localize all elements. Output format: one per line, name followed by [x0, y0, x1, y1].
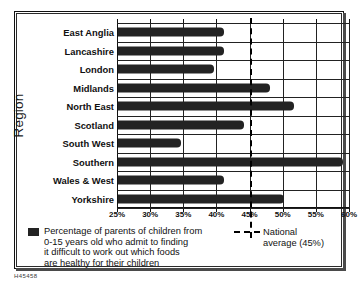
y-axis-category-label: Yorkshire — [28, 193, 114, 204]
x-axis-tick-labels: 25%30%35%40%45%50%55%60% — [117, 210, 349, 224]
x-gridline — [349, 23, 350, 208]
y-axis-category-label: Lancashire — [28, 45, 114, 56]
bar — [118, 102, 294, 111]
bar — [118, 194, 284, 203]
y-axis-category-label: Southern — [28, 156, 114, 167]
dashed-line-icon — [234, 231, 260, 233]
x-axis-tick-label: 60% — [341, 210, 357, 219]
x-axis-tick-label: 30% — [142, 210, 158, 219]
row-gridline — [117, 171, 349, 172]
legend-national-average: National average (45%) — [234, 227, 346, 248]
row-gridline — [117, 208, 349, 209]
legend-average-line1: National — [263, 227, 297, 238]
chart-figure: Region East AngliaLancashireLondonMidlan… — [0, 0, 359, 290]
x-axis-tick-label: 55% — [308, 210, 324, 219]
y-axis-category-label: London — [28, 64, 114, 75]
x-axis-tick-top — [349, 19, 350, 23]
row-gridline — [117, 42, 349, 43]
x-axis-tick-label: 40% — [208, 210, 224, 219]
bar — [118, 46, 224, 55]
bar — [118, 139, 181, 148]
y-axis-category-label: East Anglia — [28, 27, 114, 38]
reference-code: H45458 — [14, 273, 37, 279]
y-axis-category-label: Wales & West — [28, 175, 114, 186]
bar — [118, 176, 224, 185]
bar-series-swatch — [28, 228, 39, 236]
y-axis-category-label: Midlands — [28, 82, 114, 93]
row-gridline — [117, 23, 349, 24]
row-gridline — [117, 134, 349, 135]
row-gridline — [117, 97, 349, 98]
legend-series-text: Percentage of parents of children from0-… — [44, 226, 228, 268]
y-axis-category-label: North East — [28, 101, 114, 112]
x-axis-tick-label: 50% — [275, 210, 291, 219]
legend-series: Percentage of parents of children from0-… — [28, 226, 228, 268]
row-gridline — [117, 190, 349, 191]
legend-text-line: Percentage of parents of children from — [44, 226, 228, 237]
row-gridline — [117, 79, 349, 80]
bar — [118, 65, 214, 74]
bar — [118, 28, 224, 37]
national-average-line — [250, 18, 252, 238]
legend-text-line: it difficult to work out which foods — [44, 247, 228, 258]
x-axis-tick-label: 45% — [242, 210, 258, 219]
x-axis-tick-label: 25% — [109, 210, 125, 219]
row-gridline — [117, 116, 349, 117]
legend-text-line: are healthy for their children — [44, 258, 228, 269]
bar — [118, 157, 343, 166]
bar — [118, 83, 270, 92]
row-gridline — [117, 153, 349, 154]
y-axis-category-label: South West — [28, 138, 114, 149]
plot-area — [117, 23, 349, 208]
legend-average-line2: average (45%) — [263, 238, 346, 249]
x-axis-tick-label: 35% — [175, 210, 191, 219]
legend-text-line: 0-15 years old who admit to finding — [44, 237, 228, 248]
bar — [118, 120, 244, 129]
row-gridline — [117, 60, 349, 61]
y-axis-category-labels: East AngliaLancashireLondonMidlandsNorth… — [28, 23, 114, 208]
y-axis-title: Region — [11, 68, 26, 164]
y-axis-category-label: Scotland — [28, 119, 114, 130]
